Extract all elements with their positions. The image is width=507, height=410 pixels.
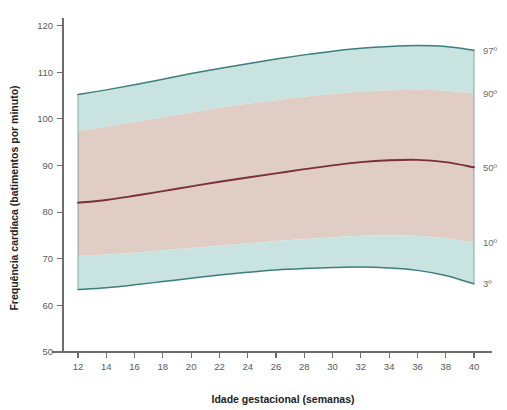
y-axis-title: Frequência cardíaca (batimentos por minu… (8, 85, 20, 310)
x-tick-label: 32 (356, 361, 367, 372)
y-tick-label: 100 (37, 113, 53, 124)
percentile-10-label: 10º (483, 237, 498, 248)
x-tick-label: 28 (299, 361, 310, 372)
y-tick-label: 80 (42, 206, 53, 217)
x-tick-label: 40 (469, 361, 480, 372)
percentile-3-label: 3º (483, 278, 492, 289)
x-tick-label: 18 (158, 361, 169, 372)
x-tick-label: 20 (186, 361, 197, 372)
x-axis-title: Idade gestacional (semanas) (212, 393, 355, 405)
chart-container: 121416182022242628303234363840 506070809… (0, 0, 507, 410)
x-tick-label: 22 (214, 361, 225, 372)
x-tick-label: 30 (327, 361, 338, 372)
y-tick-label: 60 (42, 300, 53, 311)
y-tick-label: 50 (42, 346, 53, 357)
x-tick-label: 26 (271, 361, 282, 372)
x-tick-label: 14 (101, 361, 112, 372)
y-tick-label: 70 (42, 253, 53, 264)
x-tick-label: 24 (242, 361, 253, 372)
fetal-heart-rate-percentile-chart: 121416182022242628303234363840 506070809… (0, 0, 507, 410)
percentile-97-label: 97º (483, 45, 498, 56)
x-tick-label: 12 (73, 361, 84, 372)
x-tick-label: 36 (412, 361, 423, 372)
x-tick-label: 34 (384, 361, 395, 372)
x-tick-label: 38 (440, 361, 451, 372)
percentile-50-label: 50º (483, 162, 498, 173)
x-tick-label: 16 (129, 361, 140, 372)
y-tick-label: 90 (42, 160, 53, 171)
y-tick-label: 110 (38, 67, 53, 78)
percentile-90-label: 90º (483, 88, 498, 99)
y-tick-label: 120 (37, 20, 53, 31)
